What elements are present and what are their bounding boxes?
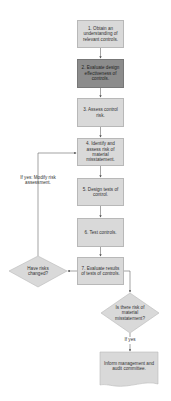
step-7-box: 7. Evaluate results of tests of controls… [77,257,124,285]
step-4-label: 4. Identify and assess risk of material … [80,141,121,163]
step-4-box: 4. Identify and assess risk of material … [77,138,124,166]
decision-risks-changed: Have risks changed? [18,263,58,279]
step-3-label: 3. Assess control risk. [80,107,121,118]
step-2-label: 2. Evaluate design effectiveness of cont… [80,65,121,81]
step-3-box: 3. Assess control risk. [77,98,124,127]
step-5-label: 5. Design tests of control. [80,187,121,198]
step-6-box: 6. Test controls. [77,218,124,247]
step-6-label: 6. Test controls. [84,230,116,235]
document-inform-management: Inform management and audit committee. [102,354,156,378]
step-5-box: 5. Design tests of control. [77,178,124,206]
step-7-label: 7. Evaluate results of tests of controls… [80,266,121,277]
step-1-label: 1. Obtain an understanding of relevant c… [80,26,121,42]
loop-back-label: If yes: Modify risk assessment. [18,175,58,186]
step-1-box: 1. Obtain an understanding of relevant c… [77,20,124,48]
step-2-box: 2. Evaluate design effectiveness of cont… [77,59,124,88]
if-yes-label: If yes [118,337,142,342]
decision-material-misstatement: Is there risk of material misstatement? [111,301,149,325]
